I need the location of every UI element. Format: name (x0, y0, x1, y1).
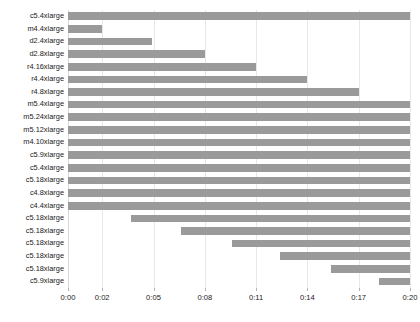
bar[interactable] (68, 126, 410, 134)
x-axis: 0:000:020:050:080:110:140:170:20 (68, 288, 410, 312)
bar[interactable] (379, 278, 410, 286)
bar[interactable] (68, 177, 410, 185)
y-axis-tick-label: d2.8xlarge (0, 48, 64, 61)
bar[interactable] (181, 227, 410, 235)
bar[interactable] (68, 25, 102, 33)
bar[interactable] (68, 202, 410, 210)
y-axis-tick-label: c4.4xlarge (0, 200, 64, 213)
y-axis-labels: c5.4xlargem4.4xlarged2.4xlarged2.8xlarge… (0, 10, 64, 288)
plot-area (68, 10, 410, 288)
y-axis-tick-label: m5.24xlarge (0, 111, 64, 124)
y-axis-tick-label: c5.18xlarge (0, 225, 64, 238)
bar[interactable] (68, 113, 410, 121)
y-axis-tick-label: c4.8xlarge (0, 187, 64, 200)
chart-row (68, 275, 410, 288)
x-axis-tick-label: 0:00 (61, 293, 76, 302)
y-axis-tick-label: m4.10xlarge (0, 136, 64, 149)
chart-row (68, 187, 410, 200)
chart-row (68, 86, 410, 99)
bar[interactable] (68, 38, 152, 46)
y-axis-tick-label: c5.18xlarge (0, 237, 64, 250)
x-axis-tick-mark (102, 288, 103, 291)
x-axis-tick-mark (410, 288, 411, 291)
chart-row (68, 162, 410, 175)
y-axis-tick-label: c5.9xlarge (0, 149, 64, 162)
x-axis-tick-label: 0:17 (351, 293, 366, 302)
x-axis-tick-label: 0:08 (197, 293, 212, 302)
x-axis-tick-mark (154, 288, 155, 291)
chart-row (68, 98, 410, 111)
x-axis-tick-label: 0:14 (300, 293, 315, 302)
chart-row (68, 124, 410, 137)
y-axis-tick-label: c5.18xlarge (0, 174, 64, 187)
chart-row (68, 111, 410, 124)
y-axis-tick-label: r4.4xlarge (0, 73, 64, 86)
bar[interactable] (68, 76, 307, 84)
x-axis-tick-label: 0:02 (95, 293, 110, 302)
y-axis-tick-label: c5.18xlarge (0, 250, 64, 263)
y-axis-tick-label: d2.4xlarge (0, 35, 64, 48)
bar[interactable] (68, 139, 410, 147)
chart-row (68, 250, 410, 263)
y-axis-tick-label: m5.12xlarge (0, 124, 64, 137)
chart-row (68, 149, 410, 162)
bar[interactable] (68, 101, 410, 109)
y-axis-tick-label: m4.4xlarge (0, 23, 64, 36)
x-axis-tick-mark (205, 288, 206, 291)
x-axis-tick-label: 0:05 (146, 293, 161, 302)
chart-row (68, 263, 410, 276)
chart-row (68, 35, 410, 48)
bar[interactable] (68, 189, 410, 197)
y-axis-tick-label: c5.4xlarge (0, 10, 64, 23)
bar[interactable] (68, 12, 410, 20)
chart-row (68, 48, 410, 61)
bar[interactable] (232, 240, 410, 248)
x-axis-tick-label: 0:20 (403, 293, 418, 302)
x-axis-tick-mark (68, 288, 69, 291)
y-axis-tick-label: r4.8xlarge (0, 86, 64, 99)
x-axis-tick-label: 0:11 (249, 293, 263, 302)
gridline (410, 10, 411, 288)
y-axis-tick-label: c5.9xlarge (0, 275, 64, 288)
bar[interactable] (68, 50, 205, 58)
x-axis-tick-mark (307, 288, 308, 291)
chart-row (68, 174, 410, 187)
y-axis-tick-label: c5.18xlarge (0, 212, 64, 225)
bar[interactable] (68, 164, 410, 172)
y-axis-tick-label: r4.16xlarge (0, 61, 64, 74)
chart-row (68, 136, 410, 149)
chart-row (68, 237, 410, 250)
x-axis-tick-mark (359, 288, 360, 291)
x-axis-tick-mark (256, 288, 257, 291)
chart-row (68, 225, 410, 238)
chart-row (68, 73, 410, 86)
chart-row (68, 200, 410, 213)
chart-row (68, 212, 410, 225)
chart-row (68, 23, 410, 36)
bar[interactable] (68, 151, 410, 159)
y-axis-tick-label: m5.4xlarge (0, 98, 64, 111)
chart-row (68, 61, 410, 74)
bar[interactable] (331, 265, 410, 273)
bar[interactable] (131, 215, 410, 223)
y-axis-tick-label: c5.18xlarge (0, 263, 64, 276)
bar[interactable] (280, 252, 410, 260)
y-axis-tick-label: c5.4xlarge (0, 162, 64, 175)
chart-row (68, 10, 410, 23)
bar[interactable] (68, 88, 359, 96)
gantt-chart: c5.4xlargem4.4xlarged2.4xlarged2.8xlarge… (0, 0, 420, 322)
bar[interactable] (68, 63, 256, 71)
